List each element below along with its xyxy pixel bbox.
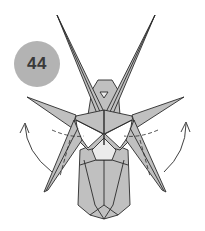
step-number: 44 xyxy=(27,54,47,74)
step-number-badge: 44 xyxy=(14,41,60,87)
origami-model xyxy=(0,0,205,231)
left-arrow-head-icon xyxy=(20,123,29,133)
right-arrow xyxy=(164,124,186,172)
left-arm xyxy=(27,97,76,128)
right-arm xyxy=(132,97,184,128)
origami-diagram: 44 xyxy=(0,0,205,231)
